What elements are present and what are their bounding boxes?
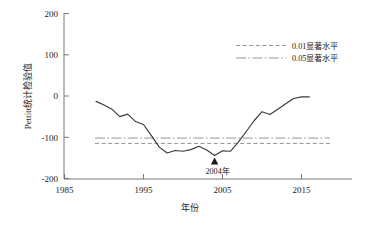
y-tick-label-100: 100 (45, 50, 59, 60)
x-tick-label-1995: 1995 (135, 185, 154, 195)
x-tick-label-2005: 2005 (214, 185, 233, 195)
y-axis-title: Pettitt统计检验值 (22, 63, 33, 130)
y-tick-label-0: 0 (54, 91, 59, 101)
chart-legend: 0.01显著水平 0.05显著水平 (236, 41, 338, 64)
x-tick-label-2015: 2015 (293, 185, 312, 195)
y-axis-ticks (64, 14, 69, 179)
chart-canvas: 200 100 0 -100 -200 1985 1995 2005 2015 … (0, 0, 371, 226)
x-axis-title: 年份 (181, 202, 199, 213)
x-tick-label-1985: 1985 (56, 185, 75, 195)
x-axis-ticks (65, 174, 302, 179)
legend-label-005: 0.05显著水平 (292, 53, 338, 63)
annotation-triangle-up-icon (211, 157, 218, 164)
y-tick-label-neg200: -200 (42, 174, 59, 184)
series-pettitt-line (96, 97, 309, 156)
y-tick-label-200: 200 (45, 9, 59, 19)
annotation-label-2004: 2004年 (205, 166, 229, 176)
y-tick-label-neg100: -100 (42, 133, 59, 143)
legend-label-001: 0.01显著水平 (292, 41, 338, 51)
pettitt-test-chart: 200 100 0 -100 -200 1985 1995 2005 2015 … (0, 0, 371, 226)
